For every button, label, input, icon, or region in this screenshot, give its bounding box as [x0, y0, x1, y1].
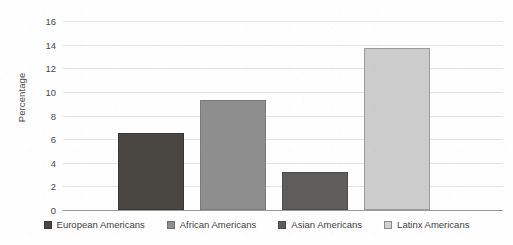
y-axis-title: Percentage — [16, 53, 27, 143]
bar — [118, 133, 184, 210]
bar-chart: Percentage 1614121086420 European Americ… — [0, 0, 513, 245]
y-axis-tick-label: 10 — [45, 87, 56, 98]
legend-item-label: Asian Americans — [291, 219, 362, 230]
legend-item[interactable]: European Americans — [44, 219, 145, 230]
legend-item[interactable]: Latinx Americans — [384, 219, 469, 230]
y-axis-tick-label: 16 — [45, 16, 56, 27]
legend-swatch-icon — [167, 221, 175, 229]
legend-item-label: Latinx Americans — [397, 219, 469, 230]
legend-item[interactable]: African Americans — [167, 219, 257, 230]
y-axis-tick-label: 6 — [51, 134, 56, 145]
y-axis-tick-label: 8 — [51, 111, 56, 122]
y-axis-tick-label: 0 — [51, 205, 56, 216]
legend-item[interactable]: Asian Americans — [278, 219, 362, 230]
legend-item-label: African Americans — [180, 219, 257, 230]
y-axis-tick-label: 4 — [51, 158, 56, 169]
bar — [364, 48, 430, 210]
legend-swatch-icon — [44, 221, 52, 229]
y-axis-tick-label: 12 — [45, 63, 56, 74]
y-axis-tick-label: 14 — [45, 40, 56, 51]
bars-layer — [63, 21, 503, 210]
legend-swatch-icon — [384, 221, 392, 229]
legend-item-label: European Americans — [57, 219, 145, 230]
bar — [200, 100, 266, 210]
plot-area: 1614121086420 — [63, 21, 503, 210]
axis-baseline — [63, 210, 503, 211]
legend-swatch-icon — [278, 221, 286, 229]
y-axis-tick-label: 2 — [51, 181, 56, 192]
chart-legend: European AmericansAfrican AmericansAsian… — [0, 219, 513, 230]
bar — [282, 172, 348, 210]
